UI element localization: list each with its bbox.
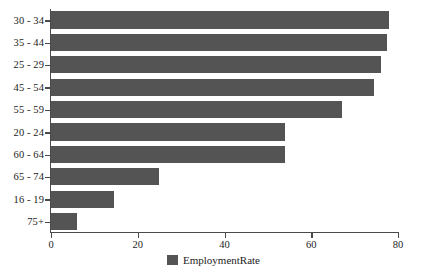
bar <box>51 34 387 51</box>
x-axis-tick-label: 20 <box>133 239 144 250</box>
bar-row <box>51 188 398 210</box>
bar-row <box>51 143 398 165</box>
bar <box>51 168 159 185</box>
bar-row <box>51 121 398 143</box>
bar-row <box>51 166 398 188</box>
y-axis-label: 60 - 64 <box>0 143 44 165</box>
y-axis-tick <box>45 177 50 178</box>
y-axis-label-text: 30 - 34 <box>14 15 44 26</box>
y-axis-label-text: 20 - 24 <box>14 127 44 138</box>
bar <box>51 146 285 163</box>
y-axis-tick <box>45 87 50 88</box>
y-axis-label: 65 - 74 <box>0 166 44 188</box>
bar-row <box>51 211 398 233</box>
y-axis-tick <box>45 132 50 133</box>
y-axis-tick <box>45 65 50 66</box>
y-axis-label-text: 60 - 64 <box>14 149 44 160</box>
y-axis-label: 30 - 34 <box>0 9 44 31</box>
y-axis-label: 25 - 29 <box>0 54 44 76</box>
plot-area <box>51 9 398 233</box>
bar <box>51 101 342 118</box>
y-axis-label: 35 - 44 <box>0 31 44 53</box>
bar-row <box>51 76 398 98</box>
x-axis-tick <box>398 233 399 238</box>
y-axis-tick <box>45 199 50 200</box>
x-axis-tick <box>138 233 139 238</box>
chart-legend: EmploymentRate <box>0 254 427 266</box>
legend-label: EmploymentRate <box>183 254 260 266</box>
x-axis-tick <box>51 233 52 238</box>
bar <box>51 11 389 28</box>
y-axis-label: 55 - 59 <box>0 99 44 121</box>
bar <box>51 191 114 208</box>
legend-swatch-icon <box>167 255 178 265</box>
y-axis-tick <box>45 20 50 21</box>
y-axis-label-text: 65 - 74 <box>14 171 44 182</box>
y-axis-label-text: 55 - 59 <box>14 104 44 115</box>
bar-row <box>51 9 398 31</box>
x-axis-tick-label: 60 <box>306 239 317 250</box>
bar <box>51 123 285 140</box>
y-axis-tick <box>45 110 50 111</box>
y-axis-label: 75+ <box>0 211 44 233</box>
x-axis-tick <box>311 233 312 238</box>
bar-row <box>51 31 398 53</box>
y-axis-label-text: 25 - 29 <box>14 59 44 70</box>
employment-rate-bar-chart: 30 - 3435 - 4425 - 2945 - 5455 - 5920 - … <box>0 0 427 280</box>
y-axis-label: 45 - 54 <box>0 76 44 98</box>
bar <box>51 79 374 96</box>
y-axis-label: 20 - 24 <box>0 121 44 143</box>
bar <box>51 213 77 230</box>
y-axis-label-text: 75+ <box>27 216 44 227</box>
bar <box>51 56 381 73</box>
x-axis-tick <box>225 233 226 238</box>
y-axis-category-labels: 30 - 3435 - 4425 - 2945 - 5455 - 5920 - … <box>0 9 44 233</box>
y-axis-tick <box>45 222 50 223</box>
y-axis-label: 16 - 19 <box>0 188 44 210</box>
bar-row <box>51 54 398 76</box>
x-axis-tick-label: 40 <box>219 239 230 250</box>
y-axis-label-text: 16 - 19 <box>14 194 44 205</box>
y-axis-tick <box>45 155 50 156</box>
x-axis-tick-label: 80 <box>393 239 404 250</box>
y-axis-label-text: 45 - 54 <box>14 82 44 93</box>
x-axis-tick-label: 0 <box>48 239 53 250</box>
y-axis-tick <box>45 43 50 44</box>
bar-row <box>51 99 398 121</box>
y-axis-label-text: 35 - 44 <box>14 37 44 48</box>
